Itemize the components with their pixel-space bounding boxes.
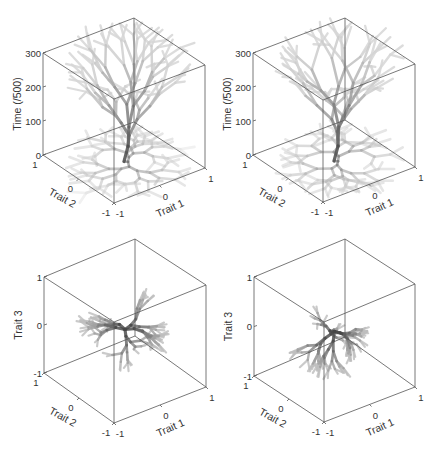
- data-series: [290, 307, 369, 380]
- z-tick-label: 100: [235, 116, 251, 127]
- trait2-tick-label: 1: [242, 159, 247, 170]
- trait2-tick-label: 0: [277, 183, 282, 194]
- trait2-tick-label: 1: [32, 159, 37, 170]
- trait1-tick-label: -1: [326, 427, 334, 438]
- trait1-tick-label: -1: [116, 208, 124, 219]
- trait1-tick-label: 1: [209, 392, 214, 403]
- panel-top-right: 010020030010-1-101Time (/500)Trait 2Trai…: [221, 18, 424, 218]
- trait1-tick-label: 1: [418, 172, 423, 183]
- z-tick-label: 200: [25, 82, 41, 93]
- panel-bottom-left: -10110-1-101Trait 3Trait 2Trait 1: [12, 239, 215, 439]
- trait2-tick-label: -1: [312, 426, 320, 437]
- trait2-tick-label: -1: [102, 427, 110, 438]
- trait1-tick-label: -1: [325, 207, 333, 218]
- trait2-tick-label: 0: [68, 402, 73, 413]
- trait1-axis-label: Trait 1: [154, 196, 186, 219]
- trait1-axis-label: Trait 1: [364, 415, 396, 438]
- z-tick-label: 1: [37, 272, 42, 283]
- trait1-tick-label: 1: [208, 173, 213, 184]
- z-tick-label: 300: [235, 48, 251, 59]
- trait2-tick-label: -1: [311, 206, 319, 217]
- z-tick-label: 1: [247, 272, 252, 283]
- trait2-tick-label: -1: [102, 207, 110, 218]
- trait2-axis-label: Trait 2: [47, 185, 79, 210]
- z-tick-label: 300: [25, 48, 41, 59]
- figure: 010020030010-1-101Time (/500)Trait 2Trai…: [0, 0, 432, 452]
- data-series: [66, 23, 194, 203]
- data-series: [276, 18, 404, 197]
- trait2-axis-label: Trait 2: [47, 404, 79, 429]
- trait1-tick-label: 1: [418, 392, 423, 403]
- trait1-tick-label: 0: [373, 410, 378, 421]
- trait2-tick-label: 0: [68, 183, 73, 194]
- z-axis-label: Trait 3: [12, 310, 24, 340]
- trait1-tick-label: -1: [116, 428, 124, 439]
- axes-box: -10110-1-101Trait 3Trait 2Trait 1: [12, 239, 215, 439]
- trait1-tick-label: 0: [163, 410, 168, 421]
- z-axis-label: Time (/500): [221, 77, 233, 130]
- z-tick-label: 200: [235, 82, 251, 93]
- trait2-tick-label: 1: [243, 380, 248, 391]
- z-tick-label: 100: [25, 116, 41, 127]
- trait2-tick-label: 1: [33, 377, 38, 388]
- trait2-axis-label: Trait 2: [256, 185, 288, 210]
- trait1-axis-label: Trait 1: [155, 416, 187, 439]
- z-tick-label: 0: [37, 320, 42, 331]
- data-series: [77, 289, 169, 371]
- z-axis-label: Time (/500): [11, 77, 23, 130]
- trait1-axis-label: Trait 1: [364, 195, 396, 218]
- trait2-tick-label: 0: [278, 403, 283, 414]
- trait1-tick-label: 0: [372, 190, 377, 201]
- panel-top-left: 010020030010-1-101Time (/500)Trait 2Trai…: [11, 18, 214, 219]
- panel-bottom-right: -10110-1-101Trait 3Trait 2Trait 1: [222, 239, 424, 438]
- z-axis-label: Trait 3: [222, 312, 234, 342]
- trait2-axis-label: Trait 2: [257, 405, 289, 430]
- z-tick-label: 0: [247, 321, 252, 332]
- figure-canvas: 010020030010-1-101Time (/500)Trait 2Trai…: [0, 0, 432, 452]
- trait1-tick-label: 0: [163, 191, 168, 202]
